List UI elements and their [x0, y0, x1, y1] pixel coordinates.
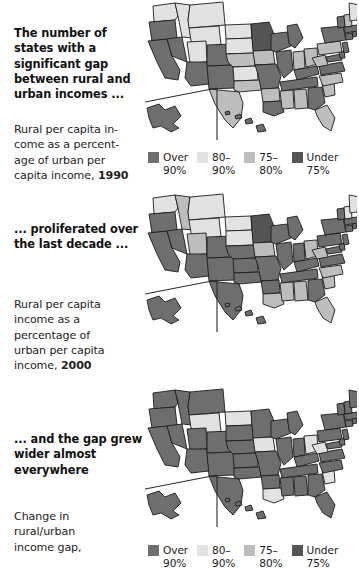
- caption-year: 2000: [61, 359, 91, 372]
- caption-line: percentage of: [14, 329, 90, 342]
- us-map-1990: [145, 0, 357, 150]
- state-ne: [226, 440, 255, 454]
- us-map-change: [145, 387, 357, 537]
- state-nd: [225, 24, 252, 39]
- panel-1-caption: Rural per capita in- come as a percent- …: [14, 122, 146, 183]
- state-ak: [147, 491, 181, 519]
- state-ia: [253, 437, 275, 452]
- legend-1990: Over 90% 80– 90% 75– 80% Under 75%: [148, 151, 347, 177]
- legend-item-75-80: 75– 80%: [244, 151, 282, 177]
- caption-line: age of urban per: [14, 154, 105, 167]
- map-svg-change: [145, 387, 357, 537]
- caption-line: Rural per capita: [14, 298, 101, 311]
- state-ak: [147, 104, 181, 132]
- legend-label-80-90: 80– 90%: [212, 151, 235, 177]
- state-ar: [261, 88, 280, 102]
- state-ms: [280, 477, 294, 496]
- state-nd: [225, 411, 252, 426]
- state-sd: [226, 38, 254, 54]
- map-svg-1990: [145, 0, 357, 150]
- state-in: [293, 243, 305, 262]
- state-nd: [225, 216, 252, 231]
- state-pa: [317, 428, 342, 442]
- legend-item-80-90: 80– 90%: [197, 151, 235, 177]
- state-tx: [209, 476, 243, 515]
- panel-1-headline: The number of states with a significant …: [14, 26, 146, 102]
- state-ar: [261, 475, 280, 489]
- state-la: [263, 488, 284, 503]
- state-ok: [234, 80, 262, 92]
- map-svg-2000: [145, 192, 357, 342]
- state-la: [263, 101, 284, 116]
- panel-2-headline: ... proliferated over the last decade ..…: [14, 222, 146, 253]
- state-ms: [280, 282, 294, 301]
- state-ny: [321, 26, 346, 43]
- state-ne: [226, 245, 255, 259]
- caption-line: come as a percent-: [14, 138, 119, 151]
- state-ks: [233, 258, 258, 273]
- state-mi: [287, 24, 303, 48]
- state-ok: [234, 467, 262, 479]
- state-mi: [287, 216, 303, 240]
- state-mn: [251, 409, 274, 438]
- panel-3-caption: Change in rural/urban income gap,: [14, 509, 146, 555]
- state-sd: [226, 425, 254, 441]
- state-ny: [321, 218, 346, 235]
- legend-item-under-75: Under 75%: [292, 151, 339, 177]
- state-fl: [315, 105, 335, 131]
- state-mn: [251, 22, 274, 51]
- panel-2000: ... proliferated over the last decade ..…: [0, 192, 359, 387]
- state-mt: [188, 389, 225, 415]
- state-mt: [188, 194, 225, 220]
- state-ut: [187, 233, 207, 255]
- state-ne: [226, 53, 255, 67]
- state-mi: [287, 411, 303, 435]
- state-ct: [345, 420, 353, 427]
- caption-line: capita income,: [14, 169, 98, 182]
- state-ut: [187, 41, 207, 63]
- state-al: [294, 89, 308, 109]
- legend-swatch-under-75: [292, 152, 303, 163]
- state-pa: [317, 233, 342, 247]
- state-wa: [153, 195, 178, 214]
- state-nm: [207, 452, 235, 476]
- state-ct: [345, 225, 353, 232]
- legend-label-75-80: 75– 80%: [259, 151, 282, 177]
- caption-line: urban per capita: [14, 344, 105, 357]
- panel-2-caption: Rural per capita income as a percentage …: [14, 297, 146, 373]
- state-az: [185, 254, 209, 278]
- legend-swatch-80-90: [197, 152, 208, 163]
- state-fl: [315, 297, 335, 323]
- state-me: [349, 3, 357, 21]
- panel-change: ... and the gap grew wider almost everyw…: [0, 387, 359, 571]
- legend-swatch-75-80: [244, 152, 255, 163]
- state-ut: [187, 428, 207, 450]
- caption-line: income as a: [14, 313, 80, 326]
- state-in: [293, 51, 305, 70]
- state-az: [185, 62, 209, 86]
- state-ia: [253, 50, 275, 65]
- legend-swatch-over-90: [148, 152, 159, 163]
- state-mt: [188, 2, 225, 28]
- state-mn: [251, 214, 274, 243]
- state-ny: [321, 413, 346, 430]
- state-la: [263, 293, 284, 308]
- state-fl: [315, 492, 335, 518]
- state-in: [293, 438, 305, 457]
- state-ar: [261, 280, 280, 294]
- state-ak: [147, 296, 181, 324]
- state-nm: [207, 65, 235, 89]
- state-tx: [209, 89, 243, 128]
- legend-label-over-90: Over 90%: [163, 151, 188, 177]
- caption-line: income gap,: [14, 541, 81, 554]
- us-map-2000: [145, 192, 357, 342]
- legend-label-under-75: Under 75%: [307, 151, 339, 177]
- panel-3-headline: ... and the gap grew wider almost everyw…: [14, 432, 146, 478]
- caption-line: Change in: [14, 510, 69, 523]
- state-al: [294, 281, 308, 301]
- state-ct: [345, 33, 353, 40]
- state-ks: [233, 66, 258, 81]
- state-wa: [153, 390, 178, 409]
- caption-line: Rural per capita in-: [14, 123, 118, 136]
- state-ia: [253, 242, 275, 257]
